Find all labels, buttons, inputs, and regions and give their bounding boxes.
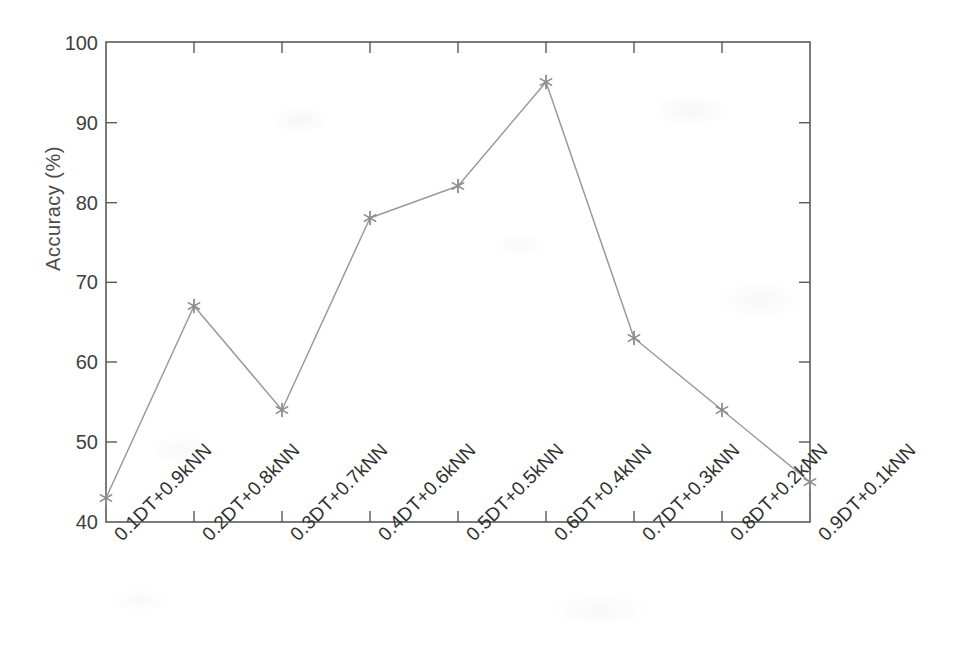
x-axis-tick-labels: 0.1DT+0.9kNN0.2DT+0.8kNN0.3DT+0.7kNN0.4D…	[0, 0, 957, 647]
chart-figure: Accuracy (%) 100 90 80 70 60 50 40	[0, 0, 957, 647]
